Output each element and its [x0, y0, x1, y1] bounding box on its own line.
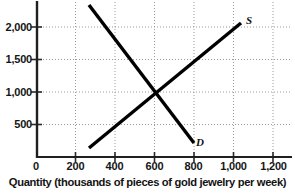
x-tick-label-400: 400: [94, 160, 135, 172]
x-tick-label-600: 600: [134, 160, 175, 172]
x-tick-label-1200: 1,200: [251, 160, 295, 172]
x-tick-label-1000: 1,000: [211, 160, 256, 172]
y-tick-label-1000: 1,000: [0, 86, 32, 98]
y-tick-label-1500: 1,500: [0, 53, 32, 65]
y-tick-label-2000: 2,000: [0, 21, 32, 33]
x-axis-title: Quantity (thousands of pieces of gold je…: [0, 176, 295, 188]
x-tick-label-200: 200: [55, 160, 96, 172]
demand-curve-label: D: [196, 136, 204, 148]
supply-curve-label: S: [246, 14, 252, 26]
x-tick-label-0: 0: [24, 160, 48, 172]
y-tick-label-500: 500: [0, 118, 32, 130]
supply-demand-chart: 2,000 1,500 1,000 500 0 200 400 600 800 …: [0, 0, 295, 194]
x-tick-label-800: 800: [173, 160, 214, 172]
supply-curve: [89, 23, 241, 148]
